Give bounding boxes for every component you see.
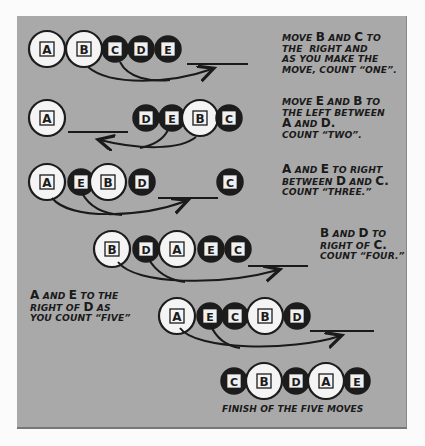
coin-d: D bbox=[129, 169, 155, 195]
coin-letter: B bbox=[260, 310, 269, 324]
coin-letter: B bbox=[107, 243, 116, 257]
coin-c: C bbox=[217, 169, 243, 195]
coin-letter: C bbox=[231, 311, 239, 324]
coin-letter: E bbox=[164, 44, 172, 57]
coin-ref: C bbox=[375, 174, 384, 188]
coin-e: E bbox=[155, 36, 181, 62]
move-arrow bbox=[52, 198, 186, 214]
text: THE RIGHT AND bbox=[282, 43, 368, 54]
coin-letter: B bbox=[259, 375, 268, 389]
text: MOVE bbox=[282, 32, 316, 43]
coin-c: C bbox=[222, 303, 248, 329]
coin-letter: C bbox=[111, 44, 119, 57]
coin-ref: B bbox=[320, 226, 329, 240]
coin-b: B bbox=[182, 100, 218, 136]
move-arrow-tail bbox=[140, 130, 168, 148]
coin-letter: E bbox=[168, 113, 176, 126]
text: AND bbox=[346, 176, 375, 187]
coin-letter: E bbox=[77, 177, 85, 190]
text: YOU COUNT “FIVE” bbox=[30, 312, 130, 323]
text: RIGHT OF bbox=[30, 302, 83, 313]
text: BETWEEN bbox=[282, 176, 336, 187]
coin-letter: A bbox=[42, 43, 52, 57]
row3-arrows bbox=[52, 193, 218, 215]
step2-instruction: MOVE E AND B TO THE LEFT BETWEEN A AND D… bbox=[282, 96, 385, 140]
coin-letter: B bbox=[103, 176, 112, 190]
text: AND bbox=[324, 96, 353, 107]
text: AS YOU MAKE THE bbox=[282, 53, 378, 64]
coin-letter: A bbox=[172, 310, 182, 324]
coin-letter: A bbox=[42, 176, 52, 190]
coin-a: A bbox=[159, 231, 195, 267]
step4-instruction: B AND D TO RIGHT OF C. COUNT “FOUR.” bbox=[320, 228, 405, 262]
coin-letter: D bbox=[136, 44, 145, 57]
coin-ref: E bbox=[321, 162, 329, 176]
coin-b: B bbox=[94, 231, 130, 267]
step5-instruction: A AND E TO THE RIGHT OF D AS YOU COUNT “… bbox=[30, 290, 130, 324]
move-arrow-tail bbox=[120, 62, 170, 80]
coin-letter: A bbox=[172, 243, 182, 257]
step3-instruction: A AND E TO RIGHT BETWEEN D AND C. COUNT … bbox=[282, 164, 389, 198]
coin-ref: D bbox=[359, 226, 369, 240]
coin-d: D bbox=[133, 236, 159, 262]
coin-letter: B bbox=[195, 112, 204, 126]
coin-ref: E bbox=[69, 288, 77, 302]
coin-letter: E bbox=[206, 311, 214, 324]
coin-c: C bbox=[102, 36, 128, 62]
coin-c: C bbox=[221, 368, 247, 394]
coin-letter: E bbox=[353, 376, 361, 389]
text: MOVE, COUNT “ONE”. bbox=[282, 64, 397, 75]
coin-a: A bbox=[29, 164, 65, 200]
coin-b: B bbox=[90, 164, 126, 200]
coin-d: D bbox=[284, 303, 310, 329]
coin-letter: A bbox=[42, 112, 52, 126]
text: COUNT “TWO”. bbox=[282, 129, 362, 140]
coin-a: A bbox=[159, 298, 195, 334]
coin-d: D bbox=[283, 368, 309, 394]
coin-ref: A bbox=[30, 288, 39, 302]
text: MOVE bbox=[282, 96, 316, 107]
coin-letter: C bbox=[234, 244, 242, 257]
text: AS bbox=[93, 302, 110, 313]
row1-arrows bbox=[88, 62, 248, 81]
coin-d: D bbox=[133, 105, 159, 131]
coin-letter: D bbox=[141, 244, 150, 257]
text: TO bbox=[363, 96, 381, 107]
coin-letter: D bbox=[292, 311, 301, 324]
coin-letter: E bbox=[207, 244, 215, 257]
move-arrow bbox=[118, 262, 278, 281]
coin-e: E bbox=[198, 236, 224, 262]
coin-ref: A bbox=[282, 162, 291, 176]
text: AND bbox=[329, 228, 358, 239]
coins-layer: ABCDEADEBCAEBDCBDAECAECBDCBDAE bbox=[29, 31, 370, 399]
coin-letter: A bbox=[321, 375, 331, 389]
coin-letter: C bbox=[225, 113, 233, 126]
coin-letter: C bbox=[226, 177, 234, 190]
coin-letter: C bbox=[230, 376, 238, 389]
finish-caption: FINISH OF THE FIVE MOVES bbox=[222, 404, 363, 415]
text: AND bbox=[291, 118, 320, 129]
text: COUNT “THREE.” bbox=[282, 186, 371, 197]
move-arrow bbox=[88, 67, 212, 81]
text: RIGHT OF bbox=[320, 240, 373, 251]
coin-letter: D bbox=[291, 376, 300, 389]
coin-a: A bbox=[29, 100, 65, 136]
text: COUNT “FOUR.” bbox=[320, 250, 405, 261]
coin-letter: D bbox=[141, 113, 150, 126]
coin-a: A bbox=[29, 31, 65, 67]
text: AND bbox=[291, 164, 320, 175]
coin-letter: B bbox=[79, 43, 88, 57]
text: AND bbox=[325, 32, 354, 43]
coin-a: A bbox=[308, 363, 344, 399]
coin-e: E bbox=[344, 368, 370, 394]
coin-c: C bbox=[216, 105, 242, 131]
coin-c: C bbox=[225, 236, 251, 262]
step1-instruction: MOVE B AND C TO THE RIGHT AND AS YOU MAK… bbox=[282, 32, 397, 75]
coin-d: D bbox=[128, 36, 154, 62]
text: . bbox=[384, 174, 389, 188]
coin-b: B bbox=[247, 298, 283, 334]
coin-b: B bbox=[66, 31, 102, 67]
text: AND bbox=[39, 290, 68, 301]
coin-letter: D bbox=[137, 177, 146, 190]
row2-arrows bbox=[68, 130, 196, 148]
